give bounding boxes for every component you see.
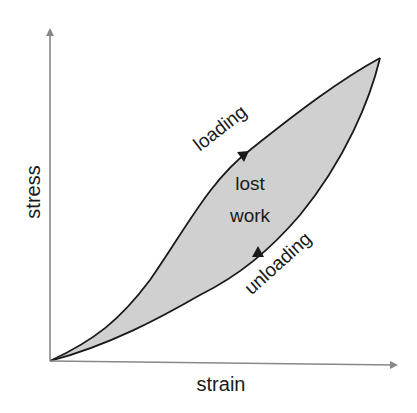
- loading-label: loading: [189, 101, 250, 155]
- lost-work-label-line1: lost: [235, 173, 265, 194]
- y-axis-label: stress: [22, 165, 44, 218]
- hysteresis-diagram: stress strain loading unloading lost wor…: [0, 0, 417, 413]
- x-axis: [50, 361, 396, 365]
- lost-work-label-line2: work: [229, 205, 271, 226]
- x-axis-label: strain: [197, 373, 246, 395]
- lost-work-region: [50, 58, 380, 361]
